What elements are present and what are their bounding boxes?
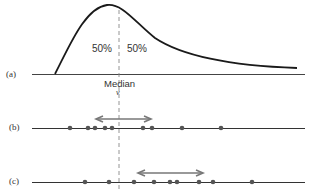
distribution-curve bbox=[55, 5, 297, 74]
median-symbol: ν bbox=[116, 89, 120, 97]
double-arrow-b bbox=[96, 116, 151, 122]
double-arrow-c bbox=[138, 170, 203, 176]
panel-label-c: (c) bbox=[9, 177, 19, 186]
diagram-canvas bbox=[0, 0, 318, 192]
panel-label-a: (a) bbox=[6, 70, 16, 79]
right-percent-label: 50% bbox=[127, 44, 147, 54]
panel-label-b: (b) bbox=[9, 123, 20, 132]
left-percent-label: 50% bbox=[92, 44, 112, 54]
